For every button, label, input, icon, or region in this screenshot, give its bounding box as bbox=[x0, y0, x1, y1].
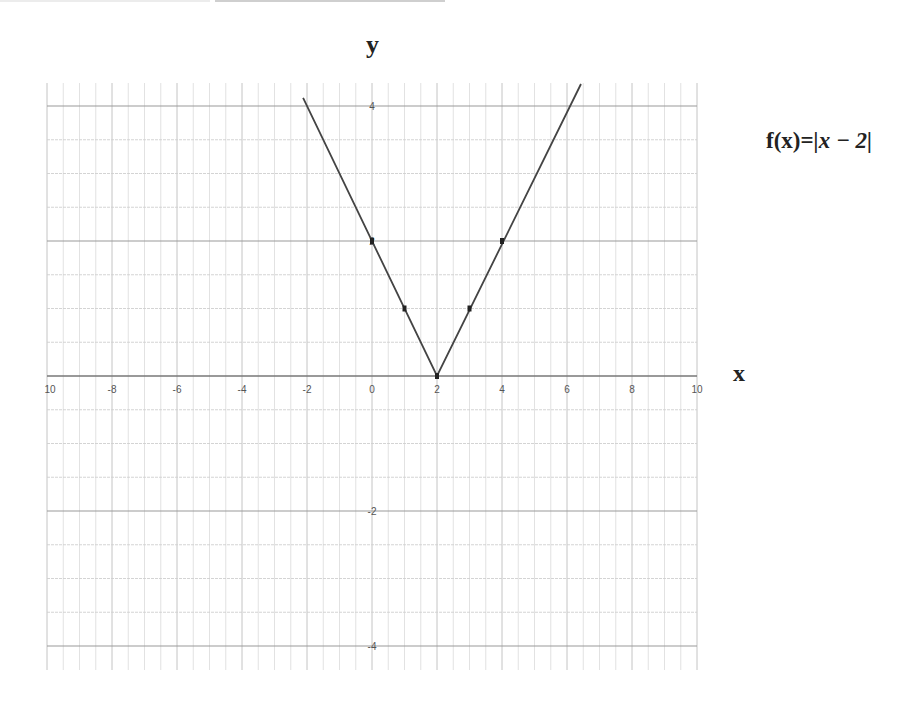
x-tick-label: 4 bbox=[499, 384, 505, 395]
data-point bbox=[500, 238, 504, 244]
x-tick-label: 10 bbox=[44, 384, 56, 395]
y-tick-label: -4 bbox=[368, 641, 377, 652]
function-label-expression: |x − 2| bbox=[814, 128, 873, 153]
x-tick-label: 10 bbox=[691, 384, 703, 395]
x-tick-label: -6 bbox=[173, 384, 182, 395]
x-tick-label: 0 bbox=[369, 384, 375, 395]
function-label: f(x)=|x − 2| bbox=[766, 128, 872, 154]
x-tick-labels: 10-8-6-4-20246810 bbox=[44, 384, 703, 395]
x-tick-label: 8 bbox=[629, 384, 635, 395]
data-point bbox=[435, 373, 439, 379]
function-line bbox=[303, 84, 581, 376]
x-tick-label: -2 bbox=[303, 384, 312, 395]
function-graph bbox=[303, 84, 581, 376]
x-tick-label: -8 bbox=[108, 384, 117, 395]
data-point bbox=[403, 306, 407, 312]
y-tick-label: -2 bbox=[368, 506, 377, 517]
data-point bbox=[370, 238, 374, 244]
x-tick-label: 2 bbox=[434, 384, 440, 395]
y-tick-label: 4 bbox=[369, 101, 375, 112]
x-tick-label: -4 bbox=[238, 384, 247, 395]
chart-plot-area: 10-8-6-4-20246810 42-2-4 bbox=[0, 0, 919, 704]
x-tick-label: 6 bbox=[564, 384, 570, 395]
x-axis-label: x bbox=[733, 360, 745, 387]
y-axis-label: y bbox=[366, 30, 379, 60]
data-point bbox=[468, 306, 472, 312]
function-label-prefix: f(x)= bbox=[766, 128, 814, 153]
